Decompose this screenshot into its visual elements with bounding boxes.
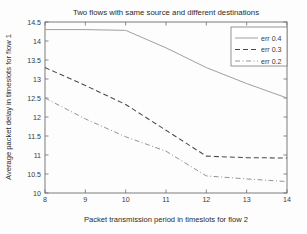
- y-tick-label: 10: [33, 190, 41, 198]
- x-tick-label: 12: [202, 196, 210, 204]
- chart-title: Two flows with same source and different…: [73, 8, 259, 17]
- legend-label-2: err 0.2: [261, 58, 282, 66]
- chart-svg: Two flows with same source and different…: [0, 0, 307, 234]
- y-tick-label: 13.5: [27, 57, 41, 65]
- y-tick-label: 12: [33, 114, 41, 122]
- y-tick-label: 11: [34, 152, 41, 160]
- series-line-2: [45, 98, 287, 182]
- legend-label-0: err 0.4: [261, 35, 282, 43]
- chart-legend: err 0.4err 0.3err 0.2: [231, 27, 287, 66]
- x-tick-label: 14: [283, 196, 291, 204]
- x-tick-label: 11: [162, 196, 169, 204]
- y-axis-label: Average packet delay in timeslots for fl…: [4, 34, 13, 180]
- y-tick-label: 11.5: [28, 133, 41, 141]
- y-tick-label: 12.5: [27, 95, 41, 103]
- legend-label-1: err 0.3: [261, 46, 282, 54]
- series-line-1: [45, 68, 287, 158]
- x-tick-label: 8: [43, 196, 47, 204]
- x-tick-label: 13: [243, 196, 251, 204]
- y-tick-label: 10.5: [27, 171, 41, 179]
- chart-figure: Two flows with same source and different…: [0, 0, 307, 234]
- x-tick-label: 10: [122, 196, 130, 204]
- x-tick-label: 9: [83, 196, 87, 204]
- x-axis-label: Packet transmission period in timeslots …: [84, 215, 248, 224]
- y-tick-label: 13: [33, 76, 41, 84]
- y-tick-label: 14.5: [27, 19, 41, 27]
- y-tick-label: 14: [33, 38, 41, 46]
